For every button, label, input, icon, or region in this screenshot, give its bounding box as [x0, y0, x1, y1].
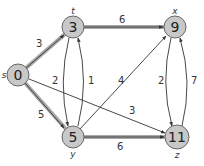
node-x: 9 x — [164, 6, 186, 38]
edge-weight-s-z: 3 — [129, 105, 135, 116]
node-z: 11 z — [165, 125, 189, 160]
edge-s-z: 3 — [29, 79, 165, 133]
edge-weight-y-t: 1 — [88, 75, 94, 86]
node-name-t: t — [71, 6, 75, 16]
node-value-t: 3 — [69, 19, 78, 35]
node-name-s: s — [2, 70, 7, 80]
edge-t-x: 6 — [73, 14, 175, 27]
node-name-z: z — [174, 150, 180, 160]
node-value-x: 9 — [171, 19, 180, 35]
edge-weight-t-y: 2 — [52, 75, 58, 86]
edge-y-z: 6 — [73, 137, 177, 152]
edge-y-t: 1 — [78, 38, 94, 126]
node-name-y: y — [69, 149, 76, 159]
node-t: 3 t — [62, 6, 84, 38]
edge-weight-t-x: 6 — [119, 14, 125, 25]
node-name-x: x — [171, 6, 178, 16]
edge-weight-s-y: 5 — [38, 109, 44, 120]
edge-z-x: 7 — [180, 38, 197, 126]
node-value-z: 11 — [168, 129, 186, 145]
node-y: 5 y — [62, 126, 84, 159]
edge-weight-s-t: 3 — [36, 38, 42, 49]
node-value-s: 0 — [14, 67, 23, 83]
shortest-path-graph: 3 5 6 6 2 1 4 — [0, 0, 204, 166]
node-value-y: 5 — [69, 129, 78, 145]
node-s: 0 s — [2, 64, 29, 86]
edge-weight-x-z: 2 — [158, 75, 164, 86]
edge-weight-y-x: 4 — [118, 75, 124, 86]
edge-weight-z-x: 7 — [191, 75, 197, 86]
edge-weight-y-z: 6 — [117, 141, 123, 152]
edge-t-y: 2 — [52, 38, 69, 126]
edge-x-z: 2 — [158, 38, 172, 126]
